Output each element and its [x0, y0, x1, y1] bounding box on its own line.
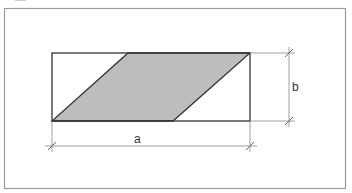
diagram-canvas: b a — [0, 0, 352, 193]
label-a: a — [134, 132, 141, 146]
label-b: b — [292, 80, 299, 94]
